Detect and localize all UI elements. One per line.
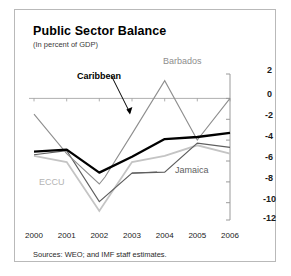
y-tick-label-m12: -12 [263, 213, 276, 223]
series-label-barbados: Barbados [163, 56, 202, 66]
x-tick-label-2000: 2000 [25, 231, 43, 240]
y-tick-label-0: 0 [267, 89, 272, 99]
x-tick-label-2002: 2002 [90, 231, 108, 240]
x-tick-marks [34, 98, 230, 101]
x-tick-label-2003: 2003 [123, 231, 141, 240]
page-title: Public Sector Balance [33, 24, 166, 38]
chart-figure: Public Sector Balance (In percent of GDP… [14, 9, 276, 262]
sources-note: Sources: WEO; and IMF staff estimates. [33, 250, 167, 259]
x-tick-label-2004: 2004 [156, 231, 174, 240]
chart-subtitle: (In percent of GDP) [33, 40, 98, 49]
y-tick-label-2: 2 [267, 65, 272, 75]
series-label-jamaica: Jamaica [175, 165, 209, 175]
plot-area [29, 57, 262, 227]
y-tick-label-m2: -2 [265, 110, 273, 120]
y-tick-label-m6: -6 [265, 152, 273, 162]
x-tick-label-2001: 2001 [58, 231, 76, 240]
series-label-eccu: ECCU [39, 177, 65, 187]
y-tick-label-m4: -4 [265, 131, 273, 141]
chart-svg [29, 57, 262, 227]
series-label-caribbean: Caribbean [77, 71, 121, 81]
x-tick-label-2005: 2005 [188, 231, 206, 240]
x-tick-label-2006: 2006 [221, 231, 239, 240]
y-tick-label-m8: -8 [265, 173, 273, 183]
y-tick-label-m10: -10 [263, 194, 276, 204]
